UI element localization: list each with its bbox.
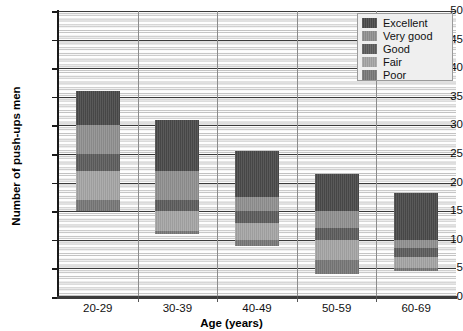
y-tick-mark [52, 183, 57, 185]
table-row[interactable] [155, 11, 199, 297]
bar-segment[interactable] [235, 211, 279, 222]
x-tick-mark [376, 296, 377, 302]
y-tick-label: 30 [411, 119, 463, 131]
y-tick-label: 25 [411, 148, 463, 160]
chart-root: 05101520253035404550 20-2930-3940-4950-5… [0, 0, 463, 331]
gridline-category [217, 11, 218, 297]
legend-swatch-icon [362, 18, 377, 28]
x-tick-label: 20-29 [58, 303, 138, 315]
legend-swatch-icon [362, 57, 377, 67]
bar-segment[interactable] [315, 260, 359, 274]
gridline-category [138, 11, 139, 297]
bar-segment[interactable] [155, 171, 199, 200]
x-tick-label: 60-69 [376, 303, 456, 315]
legend-label: Very good [383, 31, 433, 42]
bar-segment[interactable] [155, 211, 199, 231]
bar-segment[interactable] [315, 211, 359, 228]
table-row[interactable] [76, 11, 120, 297]
legend-label: Good [383, 44, 410, 55]
x-tick-label: 30-39 [138, 303, 218, 315]
x-tick-mark [138, 296, 139, 302]
bar-segment[interactable] [235, 151, 279, 197]
legend-item[interactable]: Poor [362, 69, 448, 81]
table-row[interactable] [315, 11, 359, 297]
bar-segment[interactable] [76, 91, 120, 125]
y-tick-mark [52, 297, 57, 299]
bar-segment[interactable] [394, 248, 438, 257]
legend-swatch-icon [362, 70, 377, 80]
x-tick-mark [297, 296, 298, 302]
x-tick-label: 50-59 [297, 303, 377, 315]
y-axis-title: Number of push-ups men [10, 56, 22, 256]
y-tick-mark [52, 154, 57, 156]
y-tick-label: 0 [411, 291, 463, 303]
legend-item[interactable]: Fair [362, 56, 448, 68]
y-tick-mark [52, 268, 57, 270]
y-tick-label: 15 [411, 205, 463, 217]
bar-segment[interactable] [235, 197, 279, 211]
table-row[interactable] [235, 11, 279, 297]
legend-swatch-icon [362, 31, 377, 41]
legend-item[interactable]: Excellent [362, 17, 448, 29]
legend-label: Poor [383, 70, 406, 81]
y-tick-mark [52, 97, 57, 99]
bar-segment[interactable] [76, 200, 120, 211]
bar-segment[interactable] [76, 125, 120, 154]
legend-item[interactable]: Very good [362, 30, 448, 42]
y-tick-mark [52, 240, 57, 242]
y-tick-label: 5 [411, 262, 463, 274]
x-axis-title: Age (years) [0, 317, 463, 329]
bar-segment[interactable] [155, 200, 199, 211]
y-tick-label: 35 [411, 91, 463, 103]
x-tick-label: 40-49 [217, 303, 297, 315]
bar-segment[interactable] [76, 154, 120, 171]
y-tick-mark [52, 68, 57, 70]
x-axis-line [57, 296, 457, 299]
legend-label: Excellent [383, 18, 428, 29]
y-axis-line [57, 10, 59, 298]
legend-label: Fair [383, 57, 402, 68]
y-tick-mark [52, 125, 57, 127]
x-tick-mark [217, 296, 218, 302]
y-tick-mark [52, 40, 57, 42]
gridline-category [297, 11, 298, 297]
bar-segment[interactable] [76, 171, 120, 200]
bar-segment[interactable] [235, 223, 279, 240]
y-tick-mark [52, 211, 57, 213]
bar-segment[interactable] [155, 231, 199, 234]
bar-segment[interactable] [155, 120, 199, 171]
bar-segment[interactable] [315, 174, 359, 211]
legend-swatch-icon [362, 44, 377, 54]
bar-segment[interactable] [315, 228, 359, 239]
y-tick-label: 20 [411, 177, 463, 189]
bar-segment[interactable] [235, 240, 279, 246]
y-tick-label: 10 [411, 234, 463, 246]
y-tick-mark [52, 11, 57, 13]
legend-item[interactable]: Good [362, 43, 448, 55]
legend: ExcellentVery goodGoodFairPoor [357, 13, 453, 81]
bar-segment[interactable] [315, 240, 359, 260]
